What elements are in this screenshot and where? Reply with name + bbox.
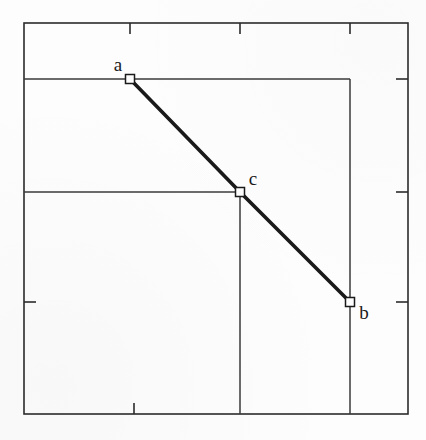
- point-marker-b[interactable]: [346, 298, 355, 307]
- point-marker-c[interactable]: [236, 188, 245, 197]
- point-label-c: c: [249, 168, 257, 189]
- figure-container: a c b: [0, 0, 426, 440]
- point-label-b: b: [359, 302, 369, 323]
- plot-canvas: a c b: [0, 0, 426, 440]
- point-label-a: a: [114, 54, 123, 75]
- point-marker-a[interactable]: [126, 75, 135, 84]
